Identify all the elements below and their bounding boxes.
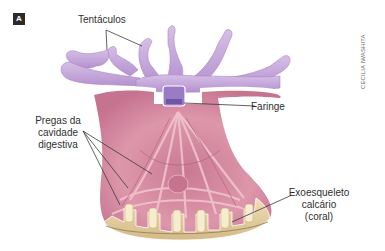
label-skeleton-line2: calcário [283,199,355,211]
label-calcareous-exoskeleton: Exoesqueleto calcário (coral) [283,187,355,223]
central-knob [168,175,188,193]
label-digestive-folds-line1: Pregas da [28,115,88,127]
tentacles [61,26,290,92]
label-digestive-folds-line2: cavidade [28,127,88,139]
label-skeleton-line1: Exoesqueleto [283,187,355,199]
label-digestive-folds-line3: digestiva [28,139,88,151]
label-skeleton-line3: (coral) [283,211,355,223]
label-digestive-folds: Pregas da cavidade digestiva [28,115,88,151]
label-tentacles: Tentáculos [78,14,126,26]
label-pharynx: Faringe [251,101,285,113]
